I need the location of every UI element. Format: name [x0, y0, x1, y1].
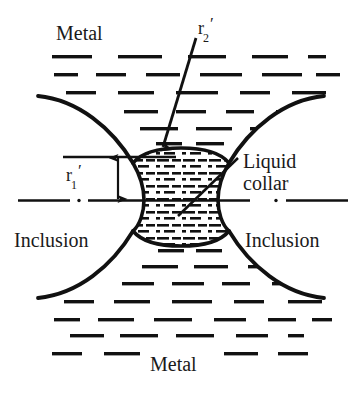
label-metal-bottom: Metal [150, 353, 197, 375]
diagram-canvas [0, 0, 362, 394]
metal-bottom-hatching [52, 249, 332, 355]
r2-subscript: 2 [203, 31, 209, 45]
label-r2-prime: r2′ [198, 18, 214, 43]
r2-prime-mark: ′ [210, 14, 214, 33]
metal-top-hatching [52, 55, 340, 145]
r1-subscript: 1 [71, 178, 77, 192]
label-liquid-collar-line1: Liquid [243, 150, 296, 172]
symmetry-axis [18, 199, 348, 202]
r1-prime-mark: ′ [78, 161, 82, 180]
label-inclusion-left: Inclusion [14, 229, 88, 251]
liquid-collar-diagram: Metal Metal Inclusion Inclusion Liquid c… [0, 0, 362, 394]
label-inclusion-right: Inclusion [245, 229, 319, 251]
label-r1-prime: r1′ [66, 165, 82, 190]
label-liquid-collar-line2: collar [243, 172, 296, 194]
label-metal-top: Metal [56, 22, 103, 44]
label-liquid-collar: Liquid collar [243, 150, 296, 195]
liquid-collar-region [133, 148, 229, 246]
